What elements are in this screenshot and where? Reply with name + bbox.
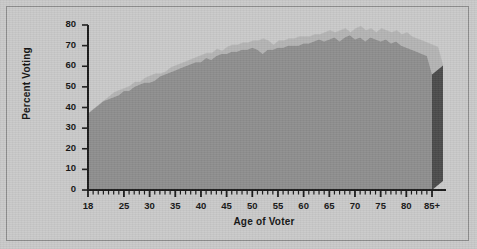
x-axis-tick-label: 85+ [424, 200, 440, 211]
y-axis-title: Percent Voting [21, 34, 32, 134]
x-axis-tick-label: 55 [273, 200, 284, 211]
y-axis-tick-label: 30 [36, 121, 76, 132]
area-front-face [88, 35, 432, 190]
x-axis-tick-label: 60 [298, 200, 309, 211]
y-axis-tick-label: 20 [36, 142, 76, 153]
x-axis-tick-label: 70 [350, 200, 361, 211]
x-axis-tick-label: 80 [401, 200, 412, 211]
x-axis-tick-label: 45 [221, 200, 232, 211]
x-axis-tick-label: 40 [196, 200, 207, 211]
y-axis-tick-label: 70 [36, 39, 76, 50]
y-axis-tick-label: 50 [36, 80, 76, 91]
y-axis-tick-label: 10 [36, 162, 76, 173]
x-axis-tick-label: 65 [324, 200, 335, 211]
x-axis-tick-label: 30 [144, 200, 155, 211]
y-axis-tick-label: 0 [36, 183, 76, 194]
x-axis-tick-label: 75 [375, 200, 386, 211]
x-axis-tick-label: 50 [247, 200, 258, 211]
y-axis-tick-label: 60 [36, 59, 76, 70]
x-axis-tick-label: 35 [170, 200, 181, 211]
chart-figure: Percent Voting Age of Voter 010203040506… [0, 0, 477, 249]
x-axis-title: Age of Voter [88, 216, 440, 227]
x-axis-tick-label: 25 [119, 200, 130, 211]
y-axis-tick-label: 80 [36, 18, 76, 29]
area-side-face [432, 66, 443, 191]
y-axis-tick-label: 40 [36, 101, 76, 112]
x-axis-tick-label: 18 [83, 200, 94, 211]
